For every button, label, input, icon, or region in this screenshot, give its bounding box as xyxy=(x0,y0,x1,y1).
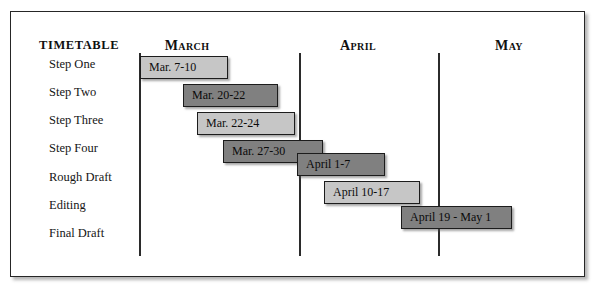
gantt-bar-0[interactable]: Mar. 7-10 xyxy=(140,56,228,79)
page-title: TIMETABLE xyxy=(39,38,119,53)
gantt-bar-6[interactable]: April 19 - May 1 xyxy=(401,206,512,229)
gantt-bar-1[interactable]: Mar. 20-22 xyxy=(183,84,278,107)
column-header-april: April xyxy=(340,38,376,54)
task-label-5: Editing xyxy=(49,198,86,213)
gantt-bar-label-2: Mar. 22-24 xyxy=(198,116,259,131)
gantt-bar-label-3: Mar. 27-30 xyxy=(224,144,285,159)
task-label-4: Rough Draft xyxy=(49,170,112,185)
task-label-2: Step Three xyxy=(49,113,103,128)
gantt-bar-5[interactable]: April 10-17 xyxy=(324,181,420,204)
gantt-bar-2[interactable]: Mar. 22-24 xyxy=(197,112,295,135)
gantt-bar-label-6: April 19 - May 1 xyxy=(402,210,491,225)
gantt-bar-label-4: April 1-7 xyxy=(298,157,350,172)
gantt-bar-label-5: April 10-17 xyxy=(325,185,389,200)
gantt-bar-4[interactable]: April 1-7 xyxy=(297,153,385,176)
task-label-0: Step One xyxy=(49,57,95,72)
column-divider-1 xyxy=(139,53,141,256)
gantt-bar-label-1: Mar. 20-22 xyxy=(184,88,245,103)
gantt-bar-label-0: Mar. 7-10 xyxy=(141,60,196,75)
column-header-may: May xyxy=(495,38,523,54)
column-header-march: March xyxy=(165,38,210,54)
task-label-3: Step Four xyxy=(49,141,98,156)
chart-header-row: TIMETABLE March April May xyxy=(11,12,584,52)
task-label-6: Final Draft xyxy=(49,226,104,241)
task-label-1: Step Two xyxy=(49,85,96,100)
timetable-chart-frame: TIMETABLE March April May Step OneStep T… xyxy=(10,11,585,277)
